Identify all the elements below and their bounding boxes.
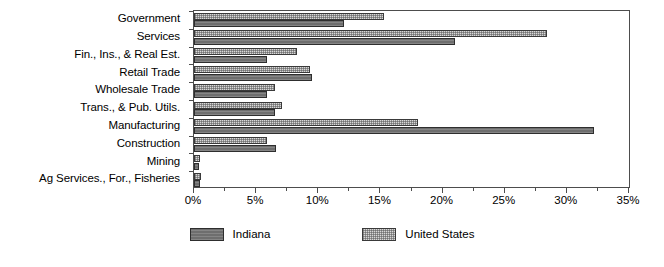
x-tick-label: 10% xyxy=(306,195,329,207)
category-label: Trans., & Pub. Utils. xyxy=(0,99,186,117)
bar-united-states xyxy=(194,137,267,144)
x-tick xyxy=(628,188,629,193)
x-tick-label: 35% xyxy=(616,195,639,207)
x-tick-minor xyxy=(286,188,287,191)
x-tick xyxy=(566,188,567,193)
x-tick-label: 20% xyxy=(430,195,453,207)
x-tick-label: 15% xyxy=(368,195,391,207)
plot-area xyxy=(193,10,630,188)
x-tick-minor xyxy=(348,188,349,191)
bar-group xyxy=(194,136,629,154)
bar-united-states xyxy=(194,173,201,180)
bar-united-states xyxy=(194,84,275,91)
x-tick-label: 25% xyxy=(492,195,515,207)
bar-united-states xyxy=(194,13,384,20)
legend-label: Indiana xyxy=(233,229,271,241)
legend-item[interactable]: United States xyxy=(362,228,474,241)
legend-swatch-icon xyxy=(190,228,224,241)
bar-indiana xyxy=(194,163,199,170)
category-label: Fin., Ins., & Real Est. xyxy=(0,46,186,64)
bar-indiana xyxy=(194,74,312,81)
bar-group xyxy=(194,64,629,82)
category-label: Manufacturing xyxy=(0,117,186,135)
category-label: Mining xyxy=(0,152,186,170)
legend-label: United States xyxy=(405,229,474,241)
legend-item[interactable]: Indiana xyxy=(190,228,271,241)
bar-indiana xyxy=(194,38,455,45)
x-tick-label: 30% xyxy=(554,195,577,207)
bar-group xyxy=(194,82,629,100)
bar-indiana xyxy=(194,56,267,63)
x-tick-minor xyxy=(535,188,536,191)
category-label: Ag Services., For., Fisheries xyxy=(0,170,186,188)
chart-legend: IndianaUnited States xyxy=(0,228,664,241)
bar-group xyxy=(194,100,629,118)
x-axis: 0%5%10%15%20%25%30%35% xyxy=(193,188,630,218)
bar-united-states xyxy=(194,155,200,162)
x-tick xyxy=(379,188,380,193)
bar-united-states xyxy=(194,102,282,109)
x-tick xyxy=(504,188,505,193)
bar-group xyxy=(194,11,629,29)
x-tick xyxy=(442,188,443,193)
x-tick-minor xyxy=(224,188,225,191)
x-tick-label: 5% xyxy=(247,195,264,207)
x-tick xyxy=(193,188,194,193)
category-label: Construction xyxy=(0,135,186,153)
category-label: Government xyxy=(0,10,186,28)
bar-indiana xyxy=(194,91,267,98)
bar-indiana xyxy=(194,180,200,187)
x-tick xyxy=(317,188,318,193)
bar-indiana xyxy=(194,145,276,152)
category-label: Services xyxy=(0,28,186,46)
x-tick-minor xyxy=(597,188,598,191)
bar-group xyxy=(194,47,629,65)
bar-united-states xyxy=(194,30,547,37)
category-label: Retail Trade xyxy=(0,63,186,81)
category-axis: GovernmentServicesFin., Ins., & Real Est… xyxy=(0,10,186,188)
bar-united-states xyxy=(194,66,310,73)
bar-indiana xyxy=(194,109,275,116)
category-label: Wholesale Trade xyxy=(0,81,186,99)
x-tick-minor xyxy=(473,188,474,191)
bar-united-states xyxy=(194,119,418,126)
bar-group xyxy=(194,153,629,171)
x-tick-label: 0% xyxy=(185,195,202,207)
bar-indiana xyxy=(194,127,594,134)
legend-swatch-icon xyxy=(362,228,396,241)
x-tick xyxy=(255,188,256,193)
bar-group xyxy=(194,29,629,47)
bar-united-states xyxy=(194,48,297,55)
bar-chart: GovernmentServicesFin., Ins., & Real Est… xyxy=(0,0,664,267)
bar-group xyxy=(194,171,629,189)
bar-group xyxy=(194,118,629,136)
x-tick-minor xyxy=(411,188,412,191)
bar-indiana xyxy=(194,20,344,27)
